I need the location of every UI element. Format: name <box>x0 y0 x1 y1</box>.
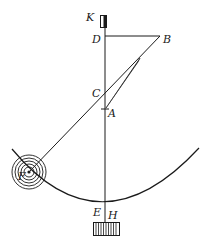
hatched-block-h <box>94 223 120 236</box>
label-a: A <box>107 107 116 120</box>
label-e: E <box>92 206 101 219</box>
line-bf <box>29 36 160 172</box>
pendulum-diagram: K D B C A F E H <box>0 0 207 245</box>
label-d: D <box>91 33 101 46</box>
wedge-ba <box>106 58 140 108</box>
label-h: H <box>107 209 118 222</box>
label-b: B <box>162 33 171 46</box>
point-f <box>27 170 30 173</box>
label-k: K <box>85 11 95 24</box>
label-c: C <box>92 87 101 100</box>
label-f: F <box>17 170 26 183</box>
support-block-k <box>101 16 107 28</box>
